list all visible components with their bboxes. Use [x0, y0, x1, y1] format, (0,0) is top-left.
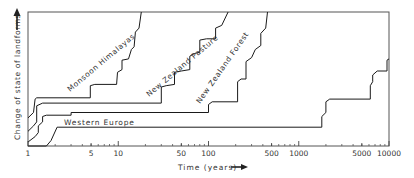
- x-tick-label: 1000: [289, 149, 308, 158]
- x-tick-label: 500: [264, 149, 279, 158]
- x-tick-label: 1: [26, 149, 31, 158]
- label-western-europe: Western Europe: [64, 118, 135, 127]
- x-axis-ticks: 1510501005001000500010000: [26, 141, 402, 158]
- x-tick-label: 10000: [377, 149, 401, 158]
- x-tick-label: 5000: [352, 149, 371, 158]
- x-tick-label: 5: [89, 149, 94, 158]
- series-line-new-zealand-pasture: [28, 12, 228, 131]
- x-tick-label: 50: [177, 149, 187, 158]
- landform-change-chart: 1510501005001000500010000 Monsoon Himala…: [0, 0, 414, 178]
- label-nz-forest: New Zealand Forest: [194, 30, 250, 105]
- x-axis-label: Time (years): [177, 163, 237, 172]
- series-line-monsoon-himalayas: [28, 12, 141, 118]
- y-axis-label: Change of state of landforms: [13, 14, 22, 140]
- x-tick-label: 100: [201, 149, 216, 158]
- x-tick-label: 10: [113, 149, 123, 158]
